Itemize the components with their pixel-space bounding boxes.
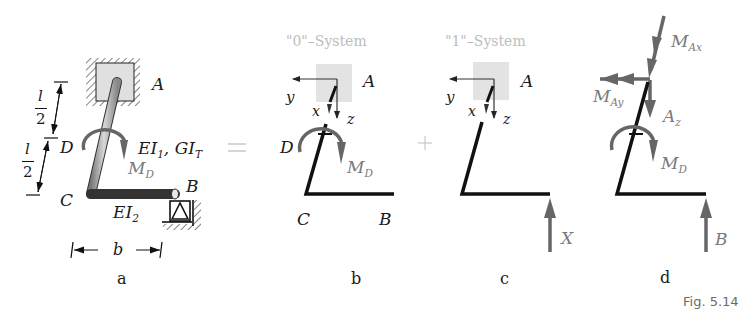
one-system-title: "1"–System xyxy=(445,34,526,48)
axis-z-label: z xyxy=(503,112,510,126)
reaction-B-label: B xyxy=(715,231,728,248)
moment-MAx-label: MAx xyxy=(671,33,702,50)
point-A-label: A xyxy=(363,73,375,90)
point-D-label: D xyxy=(280,139,294,156)
dim-lower-denominator: 2 xyxy=(23,165,33,180)
point-C-label: C xyxy=(60,192,73,209)
panel-a-structure xyxy=(26,58,201,258)
dim-upper-numerator: l xyxy=(38,89,43,104)
moment-MAy-label: MAy xyxy=(593,88,624,105)
stiffness-upper-label: EI1, GIT xyxy=(138,140,202,157)
moment-MD-label: MD xyxy=(128,160,154,177)
force-X-label: X xyxy=(561,230,573,247)
dim-lower-numerator: l xyxy=(25,142,30,157)
dim-lower-fraction-bar xyxy=(22,161,34,162)
dim-upper-denominator: 2 xyxy=(36,112,46,127)
plus-operator xyxy=(418,136,432,150)
panel-b-label: b xyxy=(351,271,361,287)
point-D-label: D xyxy=(60,139,74,156)
panel-a-label: a xyxy=(117,271,127,287)
point-B-label: B xyxy=(186,178,199,195)
point-C-label: C xyxy=(297,211,310,228)
axis-x-label: x xyxy=(312,104,320,118)
zero-system-title: "0"–System xyxy=(286,34,367,48)
axis-y-label: y xyxy=(286,90,294,105)
stiffness-lower-label: EI2 xyxy=(113,204,139,221)
roller-support-B xyxy=(162,200,201,230)
dim-width-label: b xyxy=(113,242,123,258)
figure-caption: Fig. 5.14 xyxy=(683,295,739,308)
force-Az-label: Az xyxy=(663,108,681,125)
panel-c-structure xyxy=(450,62,556,252)
point-B-label: B xyxy=(379,211,392,228)
moment-MD-label: MD xyxy=(347,159,373,176)
dim-upper-fraction-bar xyxy=(35,108,47,109)
equals-operator xyxy=(228,144,246,151)
panel-b-structure xyxy=(293,64,394,194)
axis-z-label: z xyxy=(347,112,354,126)
moment-MD-label: MD xyxy=(661,155,687,172)
point-A-label: A xyxy=(521,73,533,90)
panel-d-label: d xyxy=(660,270,670,286)
axis-y-label: y xyxy=(446,90,454,105)
panel-c-label: c xyxy=(500,271,509,287)
point-A-label: A xyxy=(152,76,164,93)
support-ghost-box xyxy=(316,64,352,102)
axis-x-label: x xyxy=(468,104,476,118)
